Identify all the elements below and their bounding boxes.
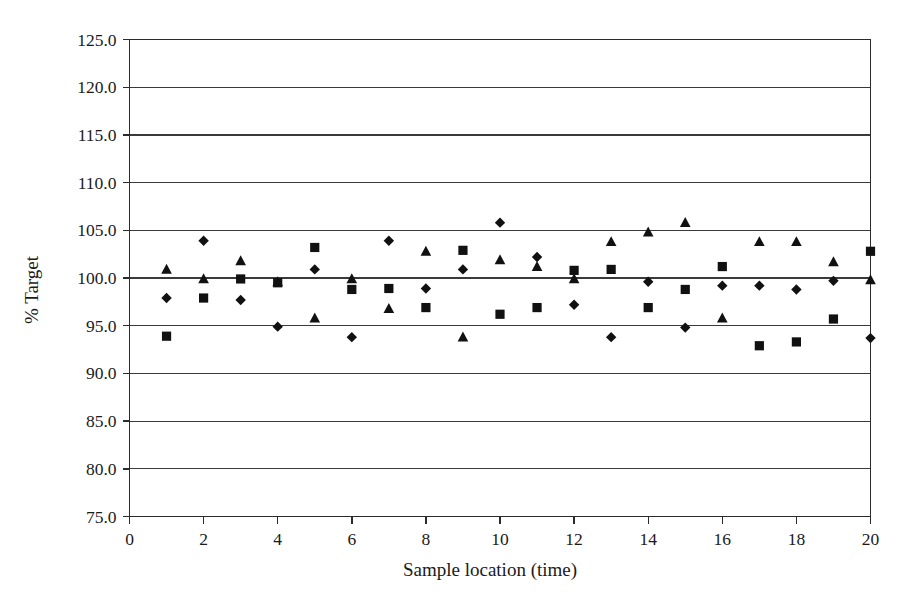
data-point-diamond [310,264,320,274]
data-point-diamond [569,300,579,310]
data-point-diamond [421,283,431,293]
data-point-square [792,337,801,346]
data-points [161,217,876,350]
x-tick-label: 20 [862,529,880,549]
data-point-triangle [717,312,728,322]
x-tick-label: 10 [491,529,509,549]
data-point-diamond [680,322,690,332]
data-point-triangle [828,256,839,266]
data-point-square [755,341,764,350]
x-tick-label: 12 [565,529,583,549]
data-point-triangle [606,236,617,246]
data-point-diamond [198,236,208,246]
data-point-square [718,262,727,271]
data-point-triangle [865,274,876,284]
y-tick-label: 85.0 [86,411,117,431]
x-tick-label: 18 [788,529,806,549]
data-point-diamond [495,217,505,227]
data-point-diamond [791,284,801,294]
data-point-triangle [384,303,395,313]
y-tick-label: 90.0 [86,363,117,383]
scatter-chart: 02468101214161820 75.080.085.090.095.010… [0,0,917,601]
x-tick-label: 2 [199,529,208,549]
x-tick-label: 16 [714,529,732,549]
data-point-diamond [754,280,764,290]
data-point-triangle [421,246,432,256]
data-point-square [347,285,356,294]
data-point-diamond [458,264,468,274]
data-point-diamond [384,236,394,246]
data-point-square [495,310,504,319]
data-point-triangle [754,236,765,246]
y-tick-label: 105.0 [77,220,117,240]
y-axis-title: % Target [21,255,42,324]
data-point-triangle [161,264,172,274]
x-axis-ticks [130,517,871,524]
x-tick-label: 8 [422,529,431,549]
data-point-triangle [791,236,802,246]
chart-container: 02468101214161820 75.080.085.090.095.010… [0,0,917,601]
data-point-triangle [495,254,506,264]
data-point-diamond [865,333,875,343]
x-axis-title: Sample location (time) [403,559,577,581]
y-tick-label: 110.0 [78,173,117,193]
y-axis-tick-labels: 75.080.085.090.095.0100.0105.0110.0115.0… [77,30,117,527]
data-point-square [199,293,208,302]
data-point-diamond [606,332,616,342]
data-point-square [644,303,653,312]
x-tick-label: 14 [639,529,657,549]
data-point-diamond [235,295,245,305]
data-point-square [532,303,541,312]
y-tick-label: 115.0 [78,125,117,145]
data-point-triangle [458,332,469,342]
data-point-square [421,303,430,312]
data-point-diamond [717,280,727,290]
data-point-diamond [273,321,283,331]
y-axis-ticks [123,40,130,517]
y-tick-label: 95.0 [86,316,117,336]
data-point-square [829,314,838,323]
data-point-square [681,285,690,294]
x-tick-label: 6 [347,529,356,549]
data-point-triangle [643,227,654,237]
data-point-diamond [347,332,357,342]
data-point-diamond [828,276,838,286]
data-point-square [236,274,245,283]
x-axis-tick-labels: 02468101214161820 [125,529,879,549]
y-tick-label: 100.0 [77,268,117,288]
y-tick-label: 75.0 [86,507,117,527]
y-tick-label: 80.0 [86,459,117,479]
data-point-diamond [532,252,542,262]
data-point-square [607,265,616,274]
data-point-triangle [532,261,543,271]
data-point-triangle [309,312,320,322]
data-point-square [458,246,467,255]
data-point-diamond [161,293,171,303]
data-point-square [384,284,393,293]
x-tick-label: 0 [125,529,134,549]
data-point-square [162,332,171,341]
data-point-square [310,243,319,252]
y-tick-label: 125.0 [77,30,117,50]
data-point-triangle [680,217,691,227]
x-tick-label: 4 [273,529,282,549]
data-point-triangle [235,255,246,265]
data-point-square [866,247,875,256]
y-tick-label: 120.0 [77,77,117,97]
